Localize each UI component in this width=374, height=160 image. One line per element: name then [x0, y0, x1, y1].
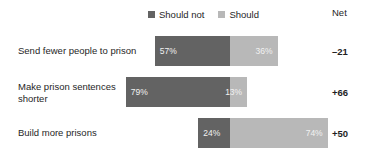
net-value: +50	[332, 128, 366, 139]
bar-value-should-not: 57%	[155, 46, 182, 56]
bar-value-should: 13%	[220, 87, 247, 97]
bar-value-should-not: 79%	[126, 87, 153, 97]
diverging-bar-chart: Should not Should Net Send fewer people …	[0, 0, 374, 160]
net-value: +66	[332, 87, 366, 98]
chart-row: Build more prisons 24% 74% +50	[0, 118, 374, 148]
chart-row: Make prison sentences shorter 79% 13% +6…	[0, 77, 374, 107]
legend-item-should: Should	[218, 9, 259, 20]
bar-value-should: 74%	[301, 128, 328, 138]
row-plot: 24% 74%	[0, 118, 374, 148]
chart-legend: Should not Should	[148, 9, 259, 20]
net-value: –21	[332, 46, 366, 57]
bar-segment-should-not: 79%	[126, 77, 230, 107]
chart-row: Send fewer people to prison 57% 36% –21	[0, 36, 374, 66]
row-plot: 79% 13%	[0, 77, 374, 107]
legend-swatch-should	[218, 11, 225, 18]
legend-label-should-not: Should not	[159, 9, 204, 20]
bar-segment-should-not: 57%	[155, 36, 230, 66]
row-plot: 57% 36%	[0, 36, 374, 66]
legend-swatch-should-not	[148, 11, 155, 18]
bar-value-should: 36%	[251, 46, 278, 56]
bar-segment-should-not: 24%	[198, 118, 230, 148]
legend-label-should: Should	[229, 9, 259, 20]
net-column-header: Net	[332, 7, 366, 18]
legend-item-should-not: Should not	[148, 9, 204, 20]
bar-value-should-not: 24%	[198, 128, 225, 138]
bar-segment-should: 13%	[230, 77, 247, 107]
bar-segment-should: 74%	[230, 118, 328, 148]
bar-segment-should: 36%	[230, 36, 278, 66]
